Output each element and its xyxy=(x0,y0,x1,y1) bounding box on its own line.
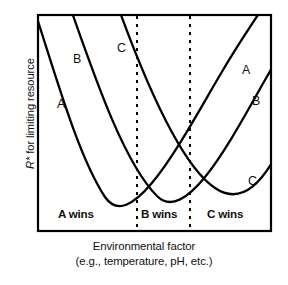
curve-label-c-left: C xyxy=(117,42,126,54)
y-axis-label: R* for limiting resource xyxy=(25,21,36,207)
curve-label-a-right: A xyxy=(242,64,250,76)
curve-label-b-right: B xyxy=(252,95,260,107)
plot-area xyxy=(37,14,272,232)
y-axis-label-container: R* for limiting resource xyxy=(0,0,36,232)
chart-svg xyxy=(37,14,272,232)
x-axis-label-line1: Environmental factor xyxy=(0,239,288,254)
x-axis-label-line2: (e.g., temperature, pH, etc.) xyxy=(0,254,288,269)
y-axis-label-rstar: R* xyxy=(24,157,36,169)
zone-label-a-wins: A wins xyxy=(58,208,94,220)
y-axis-label-rest: for limiting resource xyxy=(24,58,36,157)
zone-label-b-wins: B wins xyxy=(141,208,177,220)
zone-label-c-wins: C wins xyxy=(207,208,243,220)
figure-container: R* for limiting resource xyxy=(0,0,288,285)
x-axis-label-container: Environmental factor (e.g., temperature,… xyxy=(0,239,288,270)
curve-label-c-right: C xyxy=(248,175,257,187)
curve-label-b-left: B xyxy=(73,53,81,65)
curve-label-a-left: A xyxy=(57,98,65,110)
